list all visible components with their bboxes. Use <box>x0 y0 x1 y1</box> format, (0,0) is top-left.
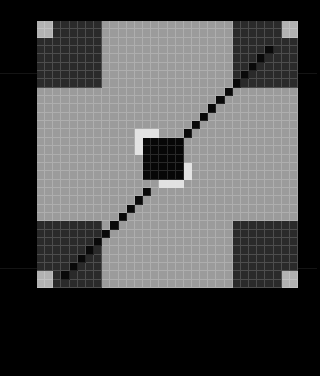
matrix-cell[interactable] <box>159 205 167 213</box>
matrix-cell[interactable] <box>290 29 298 37</box>
matrix-cell[interactable] <box>282 230 290 238</box>
matrix-cell[interactable] <box>184 171 192 179</box>
matrix-cell[interactable] <box>257 280 265 288</box>
matrix-cell[interactable] <box>151 188 159 196</box>
matrix-cell[interactable] <box>94 205 102 213</box>
matrix-cell[interactable] <box>241 88 249 96</box>
matrix-cell[interactable] <box>216 63 224 71</box>
matrix-cell[interactable] <box>192 121 200 129</box>
matrix-cell[interactable] <box>127 46 135 54</box>
matrix-cell[interactable] <box>216 129 224 137</box>
matrix-cell[interactable] <box>102 46 110 54</box>
matrix-cell[interactable] <box>274 155 282 163</box>
matrix-cell[interactable] <box>282 104 290 112</box>
matrix-cell[interactable] <box>37 155 45 163</box>
matrix-cell[interactable] <box>249 221 257 229</box>
matrix-cell[interactable] <box>110 46 118 54</box>
matrix-cell[interactable] <box>86 163 94 171</box>
matrix-cell[interactable] <box>143 71 151 79</box>
matrix-cell[interactable] <box>159 263 167 271</box>
matrix-cell[interactable] <box>168 163 176 171</box>
matrix-cell[interactable] <box>151 71 159 79</box>
matrix-cell[interactable] <box>168 63 176 71</box>
matrix-cell[interactable] <box>53 163 61 171</box>
matrix-cell[interactable] <box>151 171 159 179</box>
matrix-cell[interactable] <box>94 213 102 221</box>
matrix-cell[interactable] <box>78 196 86 204</box>
matrix-cell[interactable] <box>37 88 45 96</box>
matrix-cell[interactable] <box>151 79 159 87</box>
matrix-cell[interactable] <box>249 271 257 279</box>
matrix-cell[interactable] <box>94 263 102 271</box>
matrix-cell[interactable] <box>192 88 200 96</box>
matrix-cell[interactable] <box>61 246 69 254</box>
matrix-cell[interactable] <box>257 79 265 87</box>
matrix-cell[interactable] <box>102 79 110 87</box>
matrix-cell[interactable] <box>168 88 176 96</box>
matrix-cell[interactable] <box>176 213 184 221</box>
matrix-cell[interactable] <box>184 63 192 71</box>
matrix-cell[interactable] <box>151 246 159 254</box>
matrix-cell[interactable] <box>119 38 127 46</box>
matrix-cell[interactable] <box>290 138 298 146</box>
matrix-cell[interactable] <box>257 155 265 163</box>
matrix-cell[interactable] <box>176 271 184 279</box>
matrix-cell[interactable] <box>168 280 176 288</box>
matrix-cell[interactable] <box>233 38 241 46</box>
matrix-cell[interactable] <box>102 38 110 46</box>
matrix-cell[interactable] <box>61 213 69 221</box>
matrix-cell[interactable] <box>94 196 102 204</box>
matrix-cell[interactable] <box>233 79 241 87</box>
matrix-cell[interactable] <box>45 146 53 154</box>
matrix-cell[interactable] <box>249 246 257 254</box>
matrix-cell[interactable] <box>45 163 53 171</box>
matrix-cell[interactable] <box>225 246 233 254</box>
matrix-cell[interactable] <box>45 280 53 288</box>
matrix-cell[interactable] <box>200 271 208 279</box>
matrix-cell[interactable] <box>61 196 69 204</box>
matrix-cell[interactable] <box>176 255 184 263</box>
matrix-cell[interactable] <box>102 213 110 221</box>
matrix-cell[interactable] <box>200 196 208 204</box>
matrix-cell[interactable] <box>78 271 86 279</box>
matrix-cell[interactable] <box>70 138 78 146</box>
matrix-cell[interactable] <box>61 188 69 196</box>
matrix-cell[interactable] <box>127 255 135 263</box>
matrix-cell[interactable] <box>265 46 273 54</box>
matrix-cell[interactable] <box>94 221 102 229</box>
matrix-cell[interactable] <box>143 263 151 271</box>
matrix-cell[interactable] <box>192 29 200 37</box>
matrix-cell[interactable] <box>61 63 69 71</box>
matrix-cell[interactable] <box>70 63 78 71</box>
matrix-cell[interactable] <box>70 96 78 104</box>
matrix-cell[interactable] <box>110 263 118 271</box>
matrix-cell[interactable] <box>45 263 53 271</box>
matrix-cell[interactable] <box>45 38 53 46</box>
matrix-cell[interactable] <box>200 79 208 87</box>
matrix-cell[interactable] <box>241 263 249 271</box>
matrix-cell[interactable] <box>135 155 143 163</box>
matrix-cell[interactable] <box>119 96 127 104</box>
matrix-cell[interactable] <box>143 121 151 129</box>
matrix-cell[interactable] <box>86 113 94 121</box>
matrix-cell[interactable] <box>282 280 290 288</box>
matrix-cell[interactable] <box>282 129 290 137</box>
matrix-cell[interactable] <box>282 180 290 188</box>
matrix-cell[interactable] <box>168 121 176 129</box>
matrix-cell[interactable] <box>86 171 94 179</box>
matrix-cell[interactable] <box>53 271 61 279</box>
matrix-cell[interactable] <box>151 163 159 171</box>
matrix-cell[interactable] <box>94 255 102 263</box>
matrix-cell[interactable] <box>151 213 159 221</box>
matrix-cell[interactable] <box>176 146 184 154</box>
matrix-cell[interactable] <box>37 180 45 188</box>
matrix-cell[interactable] <box>61 138 69 146</box>
matrix-cell[interactable] <box>127 71 135 79</box>
matrix-cell[interactable] <box>274 113 282 121</box>
matrix-cell[interactable] <box>135 96 143 104</box>
matrix-cell[interactable] <box>127 230 135 238</box>
matrix-cell[interactable] <box>70 213 78 221</box>
matrix-cell[interactable] <box>184 88 192 96</box>
matrix-cell[interactable] <box>233 271 241 279</box>
matrix-cell[interactable] <box>127 54 135 62</box>
